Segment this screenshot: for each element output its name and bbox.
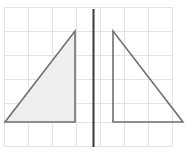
geometry-figure (0, 0, 187, 151)
figure-canvas (0, 0, 187, 151)
left-triangle (5, 31, 75, 122)
